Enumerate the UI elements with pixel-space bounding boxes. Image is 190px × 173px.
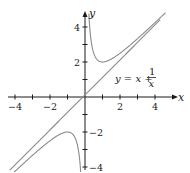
x-tick-label: 2	[117, 101, 123, 112]
equation-text: y = x +	[114, 73, 153, 84]
y-tick-label: −4	[89, 162, 103, 173]
y-axis-label: y	[88, 7, 96, 20]
y-tick-label: 2	[74, 57, 80, 68]
chart-svg: −4−22442−2−4 y x y = x + 1 x	[0, 0, 190, 172]
equation-numerator: 1	[149, 66, 155, 77]
x-tick-label: 4	[152, 101, 158, 112]
x-axis-label: x	[178, 91, 185, 104]
curve-branch-left	[6, 132, 81, 172]
y-tick-label: 4	[74, 22, 80, 33]
x-tick-label: −2	[43, 101, 57, 112]
equation-annotation: y = x + 1 x	[114, 66, 156, 89]
y-axis-arrow	[83, 11, 88, 17]
y-tick-label: −2	[89, 127, 103, 138]
curve-branch-right	[89, 13, 166, 62]
x-tick-label: −4	[8, 101, 22, 112]
curves	[6, 13, 165, 172]
chart: −4−22442−2−4 y x y = x + 1 x	[0, 0, 190, 172]
equation-denominator: x	[149, 78, 155, 89]
